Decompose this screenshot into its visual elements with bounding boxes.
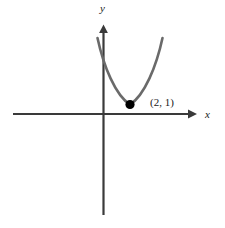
parabola-curve bbox=[98, 38, 163, 105]
y-axis-label: y bbox=[100, 3, 105, 14]
plot-canvas bbox=[0, 0, 225, 228]
y-axis-arrowhead bbox=[99, 25, 108, 34]
vertex-point-marker bbox=[125, 100, 134, 109]
vertex-coordinate-label: (2, 1) bbox=[150, 97, 174, 108]
parabola-figure: y x (2, 1) bbox=[0, 0, 225, 228]
x-axis-arrowhead bbox=[188, 110, 197, 119]
x-axis bbox=[13, 110, 197, 119]
x-axis-label: x bbox=[205, 109, 210, 120]
